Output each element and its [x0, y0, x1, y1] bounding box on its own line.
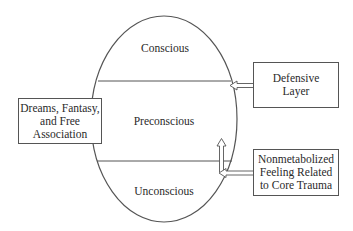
defensive-layer-box: Defensive Layer [253, 62, 339, 108]
nonmetabolized-box-line-3: to Core Trauma [260, 179, 332, 192]
region-label-conscious: Conscious [141, 42, 189, 55]
dreams-box-line-2: and Free [40, 115, 80, 128]
nonmetabolized-box-line-1: Nonmetabolized [258, 153, 334, 166]
dreams-box-line-3: Association [33, 128, 87, 141]
defensive-box-line-2: Layer [283, 85, 310, 98]
nonmetabolized-box-line-2: Feeling Related [260, 166, 333, 179]
nonmetabolized-feeling-box: Nonmetabolized Feeling Related to Core T… [253, 149, 339, 196]
trauma-arrow-icon [219, 169, 253, 178]
region-label-unconscious: Unconscious [134, 185, 193, 198]
defensive-box-line-1: Defensive [273, 72, 320, 85]
mind-layers-diagram: Conscious Preconscious Unconscious Dream… [0, 0, 353, 231]
dreams-fantasy-box: Dreams, Fantasy, and Free Association [18, 98, 102, 144]
dreams-box-line-1: Dreams, Fantasy, [20, 102, 99, 115]
upward-arrow-icon [217, 139, 226, 173]
region-label-preconscious: Preconscious [134, 115, 195, 128]
